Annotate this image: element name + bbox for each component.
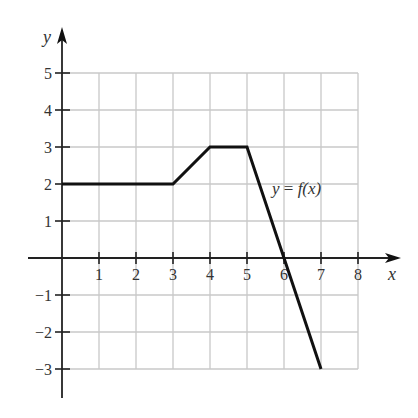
y-tick-label: 4 [44, 102, 52, 119]
x-tick-label: 4 [206, 266, 214, 283]
y-tick-label: 5 [44, 65, 52, 82]
x-tick-label: 7 [317, 266, 325, 283]
x-tick-labels: 12345678 [95, 266, 362, 283]
y-tick-label: 2 [44, 176, 52, 193]
x-tick-label: 1 [95, 266, 103, 283]
function-label-y: y [270, 179, 280, 198]
function-label-f: f(x) [298, 179, 322, 198]
x-tick-label: 2 [132, 266, 140, 283]
function-label-eq: = [280, 179, 298, 198]
grid [62, 73, 358, 369]
y-tick-label: 3 [44, 139, 52, 156]
y-axis-label: y [41, 27, 51, 47]
x-axis-label: x [387, 264, 396, 284]
x-tick-label: 3 [169, 266, 177, 283]
x-tick-label: 5 [243, 266, 251, 283]
y-tick-label: 1 [44, 213, 52, 230]
axes [28, 27, 401, 398]
y-tick-label: −3 [35, 361, 52, 378]
function-label: y = f(x) [270, 179, 322, 198]
y-tick-labels: 54321−1−2−3 [35, 65, 52, 378]
y-tick-label: −2 [35, 324, 52, 341]
function-graph: 12345678 54321−1−2−3 y x y = f(x) [0, 0, 418, 418]
x-tick-label: 8 [354, 266, 362, 283]
y-tick-label: −1 [35, 287, 52, 304]
